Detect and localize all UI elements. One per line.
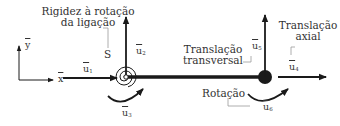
spring-symbol: S: [104, 49, 111, 60]
x-axis-symbol: x: [58, 73, 63, 84]
transverse-translation-line2: transversal: [180, 55, 246, 66]
axial-translation-line2: axial: [276, 31, 340, 42]
x-axis-label: x: [58, 74, 63, 84]
rotational-stiffness-label: Rigidez à rotação da ligação: [38, 6, 138, 28]
u3-label: u3: [122, 108, 132, 120]
leader-lines: [103, 28, 295, 106]
u4-index: 4: [295, 66, 299, 72]
y-axis-label: y: [25, 40, 30, 50]
global-axes: [19, 46, 53, 80]
u2-label: u2: [136, 46, 146, 58]
u6-label: u6: [263, 102, 273, 114]
u3-rotation-arrow: [108, 89, 143, 102]
y-axis-symbol: y: [25, 39, 30, 50]
rotation-label: Rotação: [202, 88, 245, 99]
transverse-translation-label: Translação transversal: [180, 44, 246, 66]
u6-index: 6: [269, 106, 273, 112]
u2-index: 2: [142, 50, 146, 56]
u6-rotation-arrow: [248, 89, 288, 101]
u4-label: u4: [289, 62, 299, 74]
u3-index: 3: [128, 112, 132, 118]
u1-index: 1: [89, 68, 93, 74]
u5-index: 5: [258, 45, 262, 51]
u5-label: u5: [252, 41, 262, 53]
rotational-stiffness-line2: da ligação: [38, 17, 138, 28]
axial-translation-label: Translação axial: [276, 20, 340, 42]
u1-label: u1: [83, 64, 93, 76]
